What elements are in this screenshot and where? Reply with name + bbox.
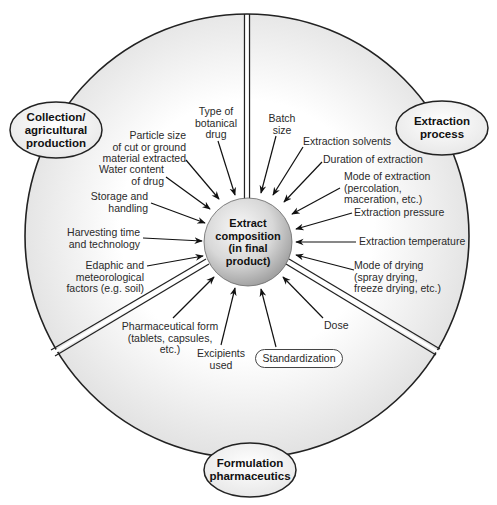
factor-standardization: Standardization: [255, 349, 343, 368]
factor-harvesting: Harvesting time and technology: [50, 227, 140, 250]
factor-water-content: Water content of drug: [90, 164, 164, 187]
factor-batch-size: Batch size: [262, 113, 302, 136]
factor-extraction-solvents: Extraction solvents: [303, 136, 413, 148]
factor-mode-of-drying: Mode of drying (spray drying, freeze dry…: [354, 260, 464, 295]
factor-dose: Dose: [324, 320, 364, 332]
factor-storage-handling: Storage and handling: [80, 191, 148, 214]
factor-extraction-pressure: Extraction pressure: [354, 207, 464, 219]
formulation-title: Formulation pharmaceutics: [204, 457, 296, 483]
center-label: Extract composition (in final product): [204, 217, 292, 267]
factor-mode-of-extraction: Mode of extraction (percolation, macerat…: [344, 171, 454, 206]
factor-extraction-temperature: Extraction temperature: [359, 236, 469, 248]
factor-duration-of-extraction: Duration of extraction: [323, 154, 453, 166]
factor-edaphic: Edaphic and meteorological factors (e.g.…: [50, 260, 144, 295]
factor-type-of-botanical-drug: Type of botanical drug: [186, 106, 246, 141]
collection-title: Collection/ agricultural production: [10, 111, 102, 150]
factor-particle-size: Particle size of cut or ground material …: [90, 130, 186, 165]
factor-excipients: Excipients used: [193, 348, 249, 371]
